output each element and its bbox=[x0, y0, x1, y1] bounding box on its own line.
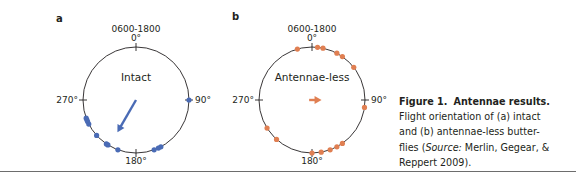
arrowhead-icon bbox=[315, 96, 322, 104]
axis-label-0: 0° bbox=[131, 33, 141, 43]
data-point bbox=[351, 65, 356, 70]
data-point bbox=[264, 125, 269, 130]
bottom-rule bbox=[0, 171, 576, 172]
axis-label-0: 0° bbox=[307, 33, 317, 43]
data-point bbox=[274, 137, 279, 142]
data-point bbox=[315, 45, 320, 50]
axis-label-270: 270° bbox=[56, 95, 78, 105]
caption-line-2: and (b) antennae-less butter- bbox=[399, 124, 574, 139]
data-point bbox=[104, 141, 109, 146]
caption-label: Figure 1. bbox=[399, 96, 447, 107]
axis-label-90: 90° bbox=[195, 95, 211, 105]
caption-source-label: Source: bbox=[425, 142, 461, 153]
data-point bbox=[186, 97, 191, 102]
condition-label-a: Intact bbox=[121, 71, 151, 83]
data-point bbox=[309, 150, 314, 155]
data-point bbox=[319, 150, 324, 155]
caption-line-1: Flight orientation of (a) intact bbox=[399, 109, 574, 124]
caption-line-3b: Merlin, Gegear, & bbox=[462, 142, 549, 153]
data-point bbox=[320, 46, 325, 51]
data-point bbox=[334, 51, 339, 56]
data-point bbox=[334, 144, 339, 149]
axis-label-270: 270° bbox=[232, 95, 254, 105]
caption-line-4: Reppert 2009). bbox=[399, 155, 574, 170]
data-point bbox=[328, 147, 333, 152]
data-point bbox=[84, 116, 89, 121]
mean-vector-arrow bbox=[119, 100, 136, 129]
axis-label-180: 180° bbox=[125, 156, 147, 166]
data-point bbox=[340, 54, 345, 59]
data-point bbox=[152, 147, 157, 152]
caption-line-3a: flies ( bbox=[399, 142, 425, 153]
axis-label-180: 180° bbox=[301, 156, 323, 166]
axis-label-90: 90° bbox=[371, 95, 387, 105]
data-point bbox=[295, 46, 300, 51]
caption-title: Antennae results. bbox=[454, 96, 550, 107]
data-point bbox=[340, 141, 345, 146]
figure-caption: Figure 1. Antennae results. Flight orien… bbox=[399, 94, 574, 170]
condition-label-b: Antennae-less bbox=[275, 71, 350, 83]
data-point bbox=[115, 147, 120, 152]
data-point bbox=[94, 133, 99, 138]
data-point bbox=[362, 105, 367, 110]
